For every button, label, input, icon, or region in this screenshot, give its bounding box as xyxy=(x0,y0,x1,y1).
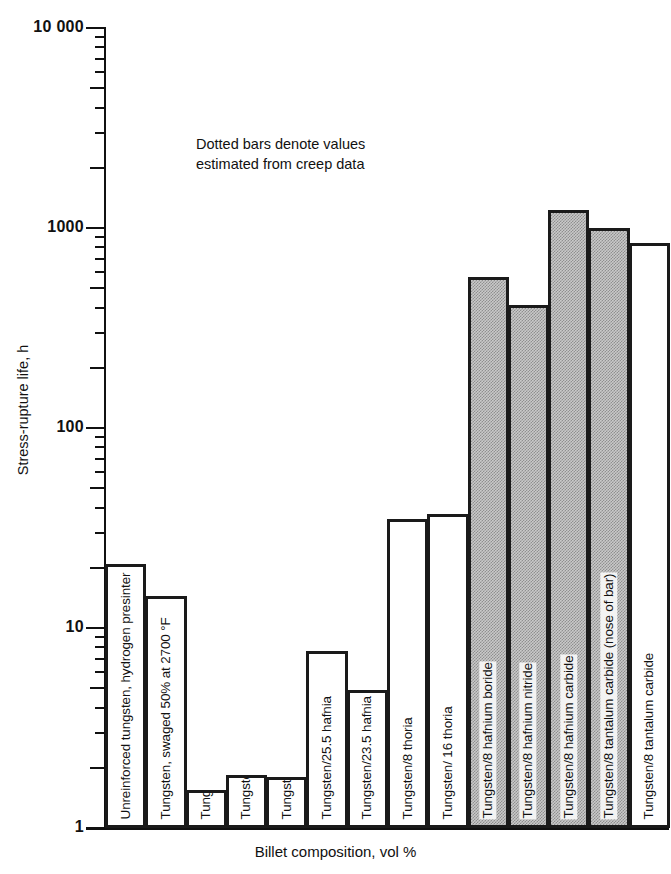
bar-label: Tungsten/8 tantalum carbide (nose of bar… xyxy=(600,572,617,819)
bar-label: Tungsten/8 hafnium nitride xyxy=(520,662,537,819)
bar-label: Tungsten/25.5 hafnia xyxy=(320,696,333,819)
bar-label: Tungsten/8 hafnium carbide xyxy=(560,654,577,819)
bar-label: Tungsten/14.5 zirconia xyxy=(200,790,213,819)
bar-label: Unreinforced tungsten, hydrogen presinte… xyxy=(119,572,132,819)
annotation-line-2: estimated from creep data xyxy=(196,154,365,174)
x-axis-title: Billet composition, vol % xyxy=(0,843,671,860)
bar: Tungsten/23.5 hafnia xyxy=(347,690,388,828)
bar: Tungsten/8 hafnium carbide xyxy=(548,210,589,828)
bar-label: Tungsten/8 hafnium boride xyxy=(480,661,497,819)
bar: Tungsten/8 hafnium boride xyxy=(468,277,509,828)
bar: Tungsten/8 tantalum carbide xyxy=(629,243,670,828)
chart-annotation: Dotted bars denote values estimated from… xyxy=(196,134,365,174)
bar: Tungsten/14.5 zirconia xyxy=(186,790,227,828)
bar-label: Tungsten/20.5 yttria xyxy=(280,777,293,819)
bar: Tungsten/20.5 zirconia xyxy=(226,775,267,828)
bar: Tungsten/8 tantalum carbide (nose of bar… xyxy=(588,228,629,828)
stress-rupture-life-bar-chart: 10 0001000100101 Stress-rupture life, h … xyxy=(0,0,671,874)
bar: Tungsten, swaged 50% at 2700 °F xyxy=(145,596,186,828)
bar: Tungsten/20.5 yttria xyxy=(266,777,307,828)
bar: Tungsten/25.5 hafnia xyxy=(306,651,347,828)
bar-label: Tungsten/20.5 zirconia xyxy=(240,775,253,819)
bar-label: Tungsten, swaged 50% at 2700 °F xyxy=(159,617,172,819)
bar: Unreinforced tungsten, hydrogen presinte… xyxy=(105,564,146,828)
bar: Tungsten/8 thoria xyxy=(387,519,428,828)
plot-area: Unreinforced tungsten, hydrogen presinte… xyxy=(0,0,671,874)
bar: Tungsten/ 16 thoria xyxy=(427,514,468,828)
bar-label: Tungsten/23.5 hafnia xyxy=(361,696,374,819)
bar-label: Tungsten/8 thoria xyxy=(401,717,414,819)
annotation-line-1: Dotted bars denote values xyxy=(196,134,365,154)
bar-label: Tungsten/ 16 thoria xyxy=(441,706,454,819)
bar: Tungsten/8 hafnium nitride xyxy=(508,305,549,828)
bar-label: Tungsten/8 tantalum carbide xyxy=(643,652,656,819)
